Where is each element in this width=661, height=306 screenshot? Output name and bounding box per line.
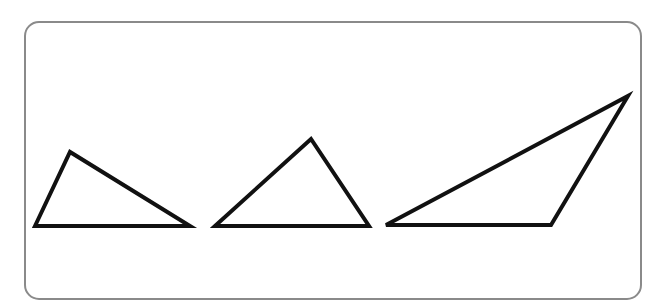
- diagram-canvas: [0, 0, 661, 306]
